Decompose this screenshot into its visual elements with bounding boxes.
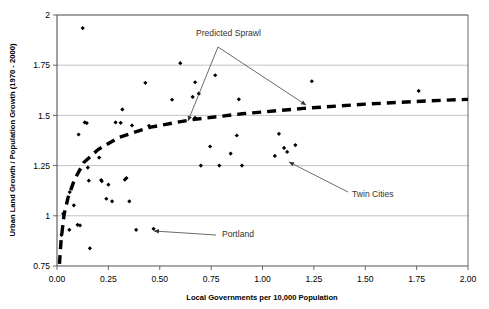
chart-container: 0.000.250.500.751.001.251.501.752.00 0.7… xyxy=(0,0,489,309)
x-tick-label: 0.25 xyxy=(100,274,117,284)
chart-background xyxy=(0,0,489,309)
y-tick-label: 1.5 xyxy=(38,111,50,121)
annotation-label: Predicted Sprawl xyxy=(196,28,261,38)
annotation-label: Twin Cities xyxy=(352,189,394,199)
x-tick-label: 0.75 xyxy=(203,274,220,284)
y-tick-label: 1.75 xyxy=(33,60,50,70)
x-tick-label: 1.75 xyxy=(408,274,425,284)
x-tick-label: 1.50 xyxy=(357,274,374,284)
x-tick-label: 2.00 xyxy=(460,274,477,284)
x-axis-label: Local Governments per 10,000 Population xyxy=(186,293,338,302)
y-tick-label: 1 xyxy=(45,211,50,221)
y-tick-label: 0.75 xyxy=(33,261,50,271)
x-tick-label: 0.00 xyxy=(49,274,66,284)
annotation-label: Portland xyxy=(222,229,254,239)
scatter-chart: 0.000.250.500.751.001.251.501.752.00 0.7… xyxy=(0,0,489,309)
y-axis-label: Urban Land Growth / Population Growth (1… xyxy=(8,43,17,236)
y-tick-label: 1.25 xyxy=(33,161,50,171)
x-tick-label: 0.50 xyxy=(151,274,168,284)
x-tick-label: 1.25 xyxy=(306,274,323,284)
x-tick-label: 1.00 xyxy=(254,274,271,284)
y-tick-label: 2 xyxy=(45,10,50,20)
